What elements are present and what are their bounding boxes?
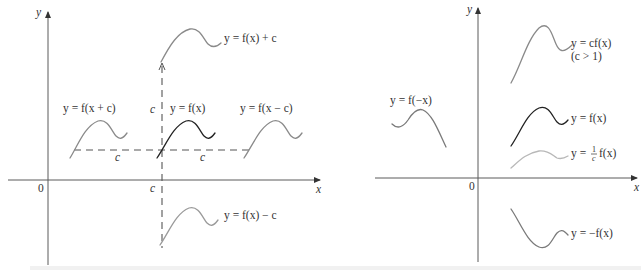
horizontal-shift-right-label: c <box>200 151 205 163</box>
label-prefix: y = <box>571 147 586 160</box>
horizontal-shift-left-label: c <box>115 151 120 163</box>
label-one-over-c-f-x: y = 1 c f(x) <box>571 145 616 163</box>
curve-f-neg-x <box>392 109 446 147</box>
label-f-x-right: y = f(x) <box>571 112 606 125</box>
label-f-x-minus-c-vertical: y = f(x) − c <box>224 209 277 222</box>
curve-f-x-right <box>511 107 568 146</box>
right-origin-label: 0 <box>469 180 475 192</box>
transformations-figure: y x 0 c c c c y = f(x) + c y = f(x + c) … <box>0 0 641 277</box>
curve-one-over-c-f-x <box>511 151 568 168</box>
label-f-x-minus-c-horizontal: y = f(x − c) <box>240 102 293 115</box>
label-c-f-x-condition: (c > 1) <box>571 50 602 63</box>
label-f-neg-x: y = f(−x) <box>390 94 432 107</box>
page-bottom-edge <box>30 266 641 270</box>
left-y-axis-label: y <box>35 6 42 19</box>
left-x-axis-label: x <box>315 183 322 195</box>
label-f-x-plus-c-horizontal: y = f(x + c) <box>63 102 116 115</box>
left-origin-label: 0 <box>38 182 44 194</box>
curve-f-x-minus-c-horizontal <box>244 121 302 158</box>
right-y-axis-label: y <box>466 3 473 16</box>
c-x-axis-label: c <box>150 182 155 194</box>
label-neg-f-x: y = −f(x) <box>571 227 613 240</box>
vertical-shift-label: c <box>150 103 155 115</box>
curve-f-x-plus-c-vertical <box>161 29 221 62</box>
curve-f-x <box>157 121 215 158</box>
right-x-axis-label: x <box>633 181 640 193</box>
label-frac-num: 1 <box>592 145 596 154</box>
label-f-x-plus-c-vertical: y = f(x) + c <box>224 32 277 45</box>
right-panel: y x 0 y = cf(x) (c > 1) y = f(−x) y = f(… <box>375 3 640 262</box>
label-suffix: f(x) <box>599 147 616 160</box>
curve-f-x-minus-c-vertical <box>160 208 218 245</box>
curve-c-f-x <box>511 26 572 83</box>
label-c-f-x: y = cf(x) <box>571 37 611 50</box>
curve-neg-f-x <box>511 209 568 248</box>
left-panel: y x 0 c c c c y = f(x) + c y = f(x + c) … <box>8 6 322 265</box>
label-f-x: y = f(x) <box>170 102 205 115</box>
label-frac-den: c <box>592 154 596 163</box>
